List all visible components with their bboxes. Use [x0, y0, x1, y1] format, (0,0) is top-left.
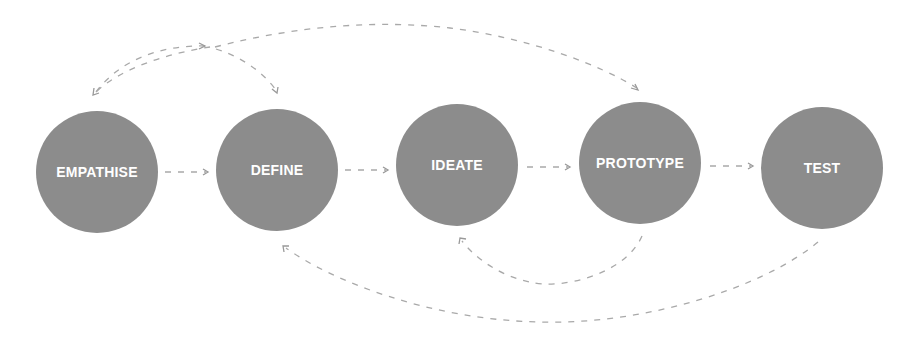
- arrow-define-to-ideate: [345, 167, 388, 173]
- stage-label: IDEATE: [431, 157, 483, 173]
- arrow-prototype-to-test: [710, 163, 753, 169]
- stage-empathise: EMPATHISE: [36, 111, 158, 233]
- stage-prototype: PROTOTYPE: [579, 102, 701, 224]
- arrow-ideate-to-prototype: [527, 164, 570, 170]
- stage-label: DEFINE: [251, 162, 304, 178]
- stage-label: TEST: [804, 160, 841, 176]
- arrow-empathise-to-define: [165, 169, 208, 175]
- feedback-arrows-below: [283, 236, 818, 322]
- stage-test: TEST: [761, 107, 883, 229]
- stage-ideate: IDEATE: [396, 104, 518, 226]
- stage-label: PROTOTYPE: [596, 155, 684, 171]
- arrow-test-to-define: [283, 242, 818, 322]
- arrow-define-to-prototype: [215, 24, 638, 90]
- stage-define: DEFINE: [216, 109, 338, 231]
- arrow-prototype-to-empathise: [93, 47, 210, 95]
- design-thinking-diagram: EMPATHISE DEFINE IDEATE PROTOTYPE TEST: [0, 0, 914, 344]
- feedback-arrows-above: [93, 24, 638, 95]
- arrow-prototype-to-ideate: [459, 236, 642, 284]
- stage-label: EMPATHISE: [56, 164, 137, 180]
- arrow-empathise-to-define-upper: [96, 43, 278, 93]
